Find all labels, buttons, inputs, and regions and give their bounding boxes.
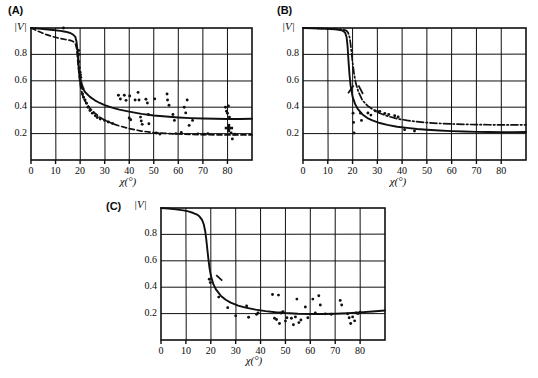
- data-point: [245, 304, 248, 307]
- data-point: [188, 124, 191, 127]
- data-point: [203, 133, 206, 136]
- data-point: [183, 106, 186, 109]
- x-tick-label: 20: [70, 165, 90, 176]
- data-point: [374, 109, 377, 112]
- data-point: [146, 102, 149, 105]
- panel-b-xlabel: χ(°): [378, 175, 418, 187]
- data-point: [348, 316, 351, 319]
- data-point: [137, 91, 140, 94]
- data-point: [353, 131, 356, 134]
- data-point: [383, 112, 386, 115]
- x-tick-label: 30: [367, 165, 387, 176]
- data-point: [299, 318, 302, 321]
- panel-a-xlabel: χ(°): [108, 175, 148, 187]
- data-point: [413, 130, 416, 133]
- x-tick-label: 50: [417, 165, 437, 176]
- data-point: [359, 112, 362, 115]
- data-point: [155, 131, 158, 134]
- x-tick-label: 80: [350, 345, 370, 356]
- data-point: [231, 137, 234, 140]
- y-tick-label: 0.2: [133, 307, 157, 318]
- data-point: [186, 98, 189, 101]
- data-point: [128, 95, 131, 98]
- data-point: [134, 98, 137, 101]
- data-point: [378, 110, 381, 113]
- data-point: [339, 299, 342, 302]
- data-point: [387, 113, 390, 116]
- data-point: [278, 322, 281, 325]
- data-point: [228, 116, 231, 119]
- x-tick-label: 40: [119, 165, 139, 176]
- data-point: [82, 96, 85, 99]
- data-point: [217, 296, 220, 299]
- data-point: [123, 94, 126, 97]
- data-point: [91, 112, 94, 115]
- data-point: [140, 119, 143, 122]
- x-tick-label: 0: [21, 165, 41, 176]
- data-point: [84, 98, 87, 101]
- data-point: [290, 317, 293, 320]
- x-tick-label: 50: [144, 165, 164, 176]
- curve-dashdot: [303, 28, 526, 125]
- panel-c-label: (C): [106, 200, 121, 212]
- data-point: [125, 99, 128, 102]
- y-tick-label: 0.8: [133, 227, 157, 238]
- data-point: [224, 106, 227, 109]
- annotation-segment: [216, 275, 222, 281]
- figure-root: (A) |V| χ(°) 010203040506070800.20.40.60…: [0, 0, 538, 378]
- x-tick-label: 40: [392, 165, 412, 176]
- data-point: [292, 323, 295, 326]
- y-tick-label: 0.6: [275, 74, 299, 85]
- x-tick-label: 60: [300, 345, 320, 356]
- data-point: [77, 49, 80, 52]
- data-point: [158, 133, 161, 136]
- curve-solid: [31, 28, 252, 119]
- y-tick-label: 0.4: [133, 280, 157, 291]
- data-point: [141, 123, 144, 126]
- panel-b-ylabel: |V|: [282, 20, 295, 32]
- data-point: [88, 109, 91, 112]
- x-tick-label: 30: [95, 165, 115, 176]
- x-tick-label: 0: [151, 345, 171, 356]
- x-tick-label: 70: [325, 345, 345, 356]
- data-point: [147, 122, 150, 125]
- data-point: [257, 311, 260, 314]
- data-point: [314, 311, 317, 314]
- y-tick-label: 0.8: [275, 47, 299, 58]
- data-point: [324, 312, 327, 315]
- x-tick-label: 80: [491, 165, 511, 176]
- data-point: [79, 71, 82, 74]
- y-tick-label: 0.2: [3, 127, 27, 138]
- data-point-plus: [225, 124, 233, 132]
- y-tick-label: 0.6: [3, 74, 27, 85]
- data-point: [233, 133, 236, 136]
- data-point: [168, 104, 171, 107]
- x-tick-label: 10: [46, 165, 66, 176]
- data-point: [227, 104, 230, 107]
- x-tick-label: 60: [168, 165, 188, 176]
- data-point: [352, 112, 355, 115]
- x-tick-label: 60: [442, 165, 462, 176]
- data-point: [349, 322, 352, 325]
- data-point: [285, 316, 288, 319]
- data-point: [144, 98, 147, 101]
- data-point: [340, 304, 343, 307]
- panel-c: (C) |V| χ(°) 010203040506070800.20.40.60…: [104, 196, 404, 378]
- data-point: [62, 27, 65, 30]
- data-point: [79, 73, 82, 76]
- data-point: [111, 122, 114, 125]
- data-point: [77, 60, 80, 63]
- data-point: [208, 278, 211, 281]
- y-tick-label: 0.4: [3, 100, 27, 111]
- data-point: [85, 102, 88, 105]
- data-point: [79, 79, 82, 82]
- data-point: [147, 113, 150, 116]
- data-point: [226, 112, 229, 115]
- data-point: [359, 311, 362, 314]
- data-point: [79, 76, 82, 79]
- data-point: [82, 87, 85, 90]
- data-point: [103, 119, 106, 122]
- data-point: [369, 114, 372, 117]
- x-tick-label: 10: [318, 165, 338, 176]
- data-point: [304, 306, 307, 309]
